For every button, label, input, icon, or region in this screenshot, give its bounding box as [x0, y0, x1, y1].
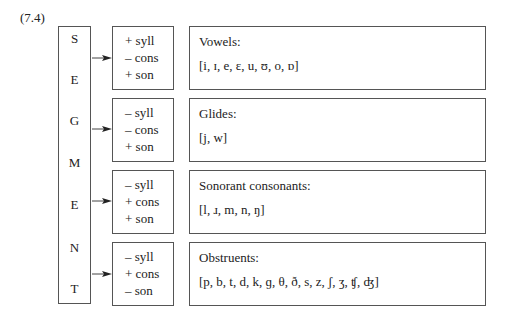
feature-syll: – syll	[125, 176, 173, 193]
segment-letter: E	[59, 197, 90, 213]
arrow-icon	[92, 269, 112, 279]
category-members: [p, b, t, d, k, ɡ, θ, ð, s, z, ʃ, ʒ, ʧ, …	[199, 274, 485, 290]
feature-son: – son	[125, 282, 173, 299]
feature-syll: – syll	[125, 104, 173, 121]
category-box-glides: Glides: [j, w]	[189, 98, 486, 162]
segment-letter: E	[59, 72, 90, 88]
category-members: [j, w]	[199, 130, 485, 146]
category-members: [l, ɹ, m, n, ŋ]	[199, 202, 485, 218]
feature-son: + son	[125, 210, 173, 227]
feature-box-glides: – syll – cons + son	[112, 98, 174, 162]
example-number: (7.4)	[20, 10, 45, 26]
segment-letter: G	[59, 113, 90, 129]
feature-son: + son	[125, 66, 173, 83]
segment-letter: S	[59, 31, 90, 47]
arrow-icon	[92, 53, 112, 63]
category-title: Obstruents:	[199, 250, 485, 274]
category-members: [i, ɪ, e, ɛ, u, ʊ, o, ɒ]	[199, 58, 485, 74]
feature-syll: + syll	[125, 32, 173, 49]
feature-cons: – cons	[125, 49, 173, 66]
segment-letter: M	[59, 155, 90, 171]
segment-box: S E G M E N T	[58, 26, 91, 304]
category-box-obstruents: Obstruents: [p, b, t, d, k, ɡ, θ, ð, s, …	[189, 242, 486, 306]
feature-box-obstruents: – syll + cons – son	[112, 242, 174, 306]
category-title: Vowels:	[199, 34, 485, 58]
category-box-vowels: Vowels: [i, ɪ, e, ɛ, u, ʊ, o, ɒ]	[189, 26, 486, 90]
segment-letter: N	[59, 240, 90, 256]
arrow-icon	[92, 196, 112, 206]
feature-box-vowels: + syll – cons + son	[112, 26, 174, 90]
feature-box-sonorants: – syll + cons + son	[112, 170, 174, 234]
segment-letter: T	[59, 281, 90, 297]
category-title: Sonorant consonants:	[199, 178, 485, 202]
feature-cons: + cons	[125, 265, 173, 282]
category-title: Glides:	[199, 106, 485, 130]
arrow-icon	[92, 124, 112, 134]
feature-syll: – syll	[125, 248, 173, 265]
category-box-sonorant-consonants: Sonorant consonants: [l, ɹ, m, n, ŋ]	[189, 170, 486, 234]
feature-cons: + cons	[125, 193, 173, 210]
feature-cons: – cons	[125, 121, 173, 138]
feature-son: + son	[125, 138, 173, 155]
